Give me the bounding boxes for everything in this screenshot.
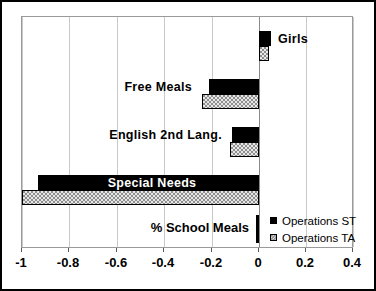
axis-title-rule xyxy=(256,215,259,243)
bar-special-needs-operations-ta[interactable] xyxy=(22,190,259,205)
bar-english-2nd-lang-operations-st[interactable] xyxy=(232,127,259,142)
bar-free-meals-operations-st[interactable] xyxy=(209,79,259,94)
legend-item-operations-ta[interactable]: Operations TA xyxy=(270,230,356,245)
bar-group-free-meals: Free Meals xyxy=(22,79,352,109)
tick-label-0-4: 0.4 xyxy=(343,255,361,270)
bar-girls-operations-st[interactable] xyxy=(259,31,271,46)
tick-mark-0-4 xyxy=(352,248,353,252)
bar-english-2nd-lang-operations-ta[interactable] xyxy=(230,142,259,157)
tick-label-minus-0-6: -0.6 xyxy=(105,255,127,270)
bar-free-meals-operations-ta[interactable] xyxy=(202,94,259,109)
tick-label-zero: 0 xyxy=(254,255,261,270)
legend-label-operations-ta: Operations TA xyxy=(282,232,355,244)
tick-mark-minus-1 xyxy=(21,248,22,252)
chart-frame: Girls Free Meals English 2nd Lang. Speci… xyxy=(0,0,376,291)
plot-area: Girls Free Meals English 2nd Lang. Speci… xyxy=(21,16,353,248)
tick-label-minus-0-4: -0.4 xyxy=(152,255,174,270)
tick-mark-minus-0-6 xyxy=(116,248,117,252)
category-label-free-meals: Free Meals xyxy=(124,80,192,94)
bar-group-special-needs: Special Needs xyxy=(22,175,352,205)
tick-mark-0-2 xyxy=(305,248,306,252)
axis-title: % School Meals xyxy=(127,220,249,235)
chart-legend: Operations ST Operations TA xyxy=(270,213,356,247)
x-axis: -1 -0.8 -0.6 -0.4 -0.2 0 0.2 0.4 xyxy=(21,248,353,278)
tick-label-0-2: 0.2 xyxy=(296,255,314,270)
tick-mark-minus-0-2 xyxy=(211,248,212,252)
legend-label-operations-st: Operations ST xyxy=(282,215,356,227)
tick-mark-zero xyxy=(258,248,259,252)
category-label-special-needs: Special Needs xyxy=(92,176,212,190)
category-label-english-2nd-lang: English 2nd Lang. xyxy=(109,128,222,142)
bar-group-english-2nd-lang: English 2nd Lang. xyxy=(22,127,352,157)
tick-label-minus-0-8: -0.8 xyxy=(57,255,79,270)
black-square-icon xyxy=(270,217,277,224)
category-label-girls: Girls xyxy=(278,32,308,46)
tick-label-minus-0-2: -0.2 xyxy=(200,255,222,270)
bar-group-girls: Girls xyxy=(22,31,352,61)
gray-checkered-square-icon xyxy=(270,234,277,241)
tick-mark-minus-0-4 xyxy=(163,248,164,252)
legend-item-operations-st[interactable]: Operations ST xyxy=(270,213,356,228)
tick-label-minus-1: -1 xyxy=(15,255,27,270)
tick-mark-minus-0-8 xyxy=(68,248,69,252)
bar-girls-operations-ta[interactable] xyxy=(259,46,269,61)
